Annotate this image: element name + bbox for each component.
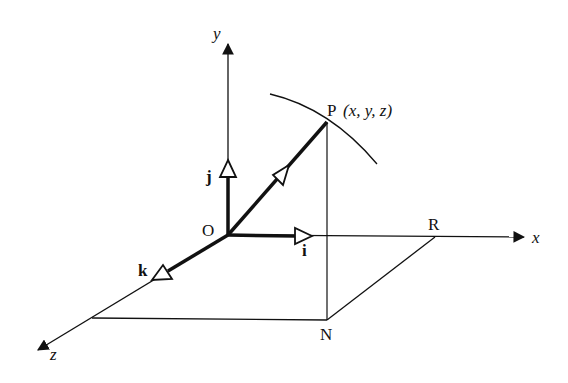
y-axis-label: y bbox=[211, 24, 221, 43]
unit-i-label: i bbox=[302, 241, 307, 260]
point-n-label: N bbox=[320, 325, 332, 344]
origin-label: O bbox=[202, 221, 214, 240]
unit-j-label: j bbox=[205, 167, 212, 186]
x-axis-label: x bbox=[531, 228, 540, 247]
point-p-coords: (x, y, z) bbox=[343, 101, 392, 120]
unit-vector-j bbox=[220, 160, 236, 235]
z-axis-label: z bbox=[49, 345, 57, 364]
unit-k-label: k bbox=[138, 261, 148, 280]
unit-vector-k bbox=[152, 235, 228, 280]
vector-diagram: y x z O j i k P (x, y, z) R N bbox=[0, 0, 568, 383]
open-arrowhead-icon bbox=[220, 160, 236, 177]
position-vector-op bbox=[228, 122, 327, 235]
projection-lines bbox=[92, 122, 435, 320]
point-p-label: P bbox=[327, 101, 336, 120]
unit-vector-i bbox=[228, 228, 312, 244]
open-arrowhead-icon bbox=[152, 265, 172, 280]
point-r-label: R bbox=[428, 215, 440, 234]
